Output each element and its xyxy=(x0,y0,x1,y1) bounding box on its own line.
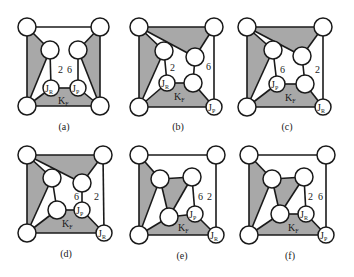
edge-weight: 2 xyxy=(58,64,63,75)
edge-weight: 6 xyxy=(318,191,323,202)
panel-d: JP JR 6 2 KF (d) xyxy=(18,146,112,260)
panel-c: JP JR 6 2 KF (c) xyxy=(238,18,332,133)
node xyxy=(91,18,109,36)
edge-weight: 2 xyxy=(94,191,99,202)
edge-weight: 2 xyxy=(207,191,212,202)
edge-weight: 2 xyxy=(308,191,313,202)
node xyxy=(91,97,109,115)
panel-caption: (a) xyxy=(58,121,69,133)
node xyxy=(18,97,36,115)
node xyxy=(41,41,59,59)
panel-e: JP JR 6 2 KF (e) xyxy=(130,146,225,262)
edge-weight: 6 xyxy=(74,191,79,202)
edge-weight: 6 xyxy=(206,61,211,72)
edge-weight: 6 xyxy=(67,64,72,75)
node xyxy=(69,41,87,59)
node xyxy=(18,18,36,36)
edge-weight: 6 xyxy=(198,191,203,202)
edge-weight: 2 xyxy=(170,62,175,73)
panel-a: JR JP 2 6 KF (a) xyxy=(18,18,109,133)
panel-caption: (d) xyxy=(60,248,72,260)
panel-caption: (c) xyxy=(281,121,292,133)
panel-caption: (e) xyxy=(176,250,187,262)
panel-caption: (b) xyxy=(172,121,184,133)
panel-f: JR JP 2 6 KF (f) xyxy=(240,146,335,262)
edge-weight: 6 xyxy=(280,64,285,75)
graph-figure: JR JP 2 6 KF (a) JR JP 2 6 KF xyxy=(0,0,354,277)
panel-b: JR JP 2 6 KF (b) xyxy=(130,18,223,133)
edge-weight: 2 xyxy=(315,64,320,75)
panel-caption: (f) xyxy=(285,250,295,262)
